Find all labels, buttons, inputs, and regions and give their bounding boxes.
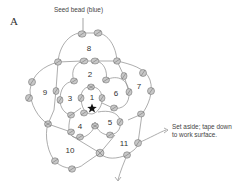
bead [148, 88, 155, 95]
bead [99, 95, 105, 102]
bead [94, 30, 102, 36]
bead [69, 166, 76, 172]
thread-paths [30, 33, 168, 181]
bead [126, 89, 132, 96]
cell-label-6: 6 [114, 89, 119, 98]
bead [81, 110, 88, 116]
bead [92, 123, 99, 129]
cell-label-8: 8 [87, 44, 92, 53]
bead [77, 134, 84, 140]
cell-label-3: 3 [68, 94, 73, 103]
bead [91, 58, 99, 64]
star-icon [87, 104, 97, 113]
bead [121, 73, 127, 80]
bead [117, 119, 123, 126]
cell-label-1: 1 [90, 93, 95, 102]
bead [78, 95, 84, 102]
bead [111, 105, 118, 111]
bead [124, 152, 131, 158]
bead [26, 95, 33, 102]
bead [114, 58, 121, 64]
bead [88, 84, 95, 90]
cell-label-4: 4 [78, 122, 83, 131]
cell-label-2: 2 [88, 70, 93, 79]
bead-pattern-svg: 1 2 3 4 5 6 7 8 9 10 11 [0, 0, 239, 188]
cell-label-7: 7 [137, 82, 142, 91]
bead [53, 88, 59, 95]
bead [103, 77, 110, 83]
bead [71, 78, 78, 84]
bead [29, 79, 36, 86]
cell-label-9: 9 [43, 88, 48, 97]
bead [55, 59, 62, 65]
bead [57, 97, 63, 104]
bead [107, 132, 114, 138]
bead [52, 158, 59, 164]
bead [135, 140, 142, 147]
bead [68, 112, 75, 118]
bead [80, 58, 88, 64]
bead [78, 31, 86, 37]
cell-label-11: 11 [120, 139, 129, 148]
bead [140, 70, 147, 77]
cell-label-10: 10 [66, 146, 75, 155]
bead [45, 121, 52, 127]
bead [96, 149, 104, 157]
beading-diagram: A Seed bead (blue) Set aside; tape down … [0, 0, 239, 188]
bead [138, 111, 145, 117]
cell-label-5: 5 [108, 118, 113, 127]
bead [68, 129, 75, 135]
